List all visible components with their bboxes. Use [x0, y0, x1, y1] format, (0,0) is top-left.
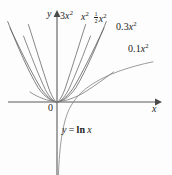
origin-label: 0	[48, 103, 53, 113]
curve-label-0-3x2: 0.3x2	[116, 22, 137, 32]
curve-label-half-x2: 12x2	[94, 11, 107, 25]
curve-label-0-1x2: 0.1x2	[128, 44, 149, 54]
curve-ln-x	[58, 62, 153, 175]
curve-0-1x2	[30, 72, 114, 102]
plot-canvas	[0, 0, 172, 175]
curve-label-ln-x: y = ln x	[62, 125, 92, 135]
curve-label-3x2: 3x2	[60, 11, 73, 21]
y-axis-label: y	[47, 9, 52, 19]
curve-label-x2: x2	[81, 12, 89, 22]
x-axis-label: x	[152, 104, 157, 114]
math-figure: 3x2 x2 12x2 0.3x2 0.1x2 y = ln x y x 0	[0, 0, 172, 175]
